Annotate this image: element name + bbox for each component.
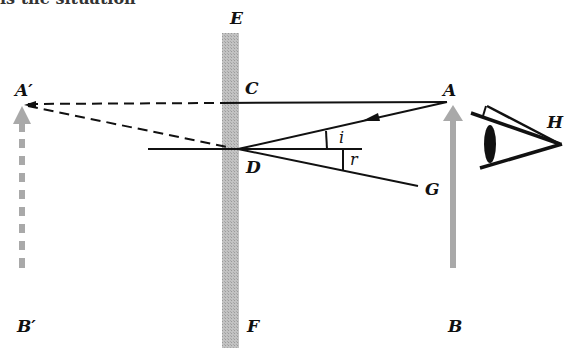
line-C-to-A	[222, 102, 447, 103]
label-E: E	[229, 8, 244, 28]
dashed-line-A-prime-to-D	[28, 106, 232, 148]
label-r: r	[350, 150, 359, 169]
object-arrow-AB	[443, 105, 463, 268]
label-F: F	[246, 316, 261, 336]
label-i: i	[339, 128, 344, 147]
label-B: B	[447, 316, 462, 336]
label-C: C	[245, 78, 259, 98]
label-H: H	[546, 112, 564, 132]
caption-fragment: is the situation	[0, 0, 136, 8]
label-G: G	[425, 179, 440, 199]
label-D: D	[245, 157, 261, 177]
label-A-prime: A′	[13, 80, 33, 100]
label-A: A	[441, 80, 456, 100]
image-arrow-AB-prime	[13, 106, 31, 268]
dashed-line-A-prime-to-C	[28, 103, 222, 104]
label-B-prime: B′	[16, 316, 36, 336]
mirror-EF	[222, 33, 239, 348]
angle-i-arc	[326, 131, 327, 149]
reflected-ray-D-to-G	[238, 149, 418, 186]
plane-mirror-reflection-diagram: is the situation E F A′ B′ A B C D G i	[0, 0, 569, 348]
ray-direction-arrowhead	[362, 113, 380, 121]
